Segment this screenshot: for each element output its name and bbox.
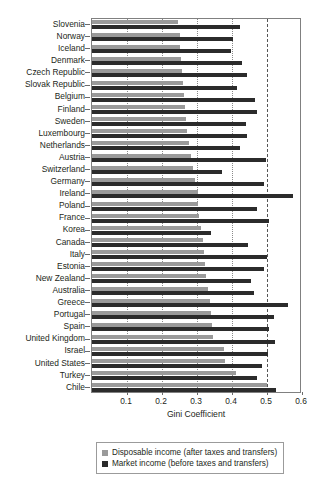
plot-panel — [91, 18, 301, 393]
category-tick — [85, 278, 90, 279]
category-label: Turkey — [60, 371, 85, 379]
category-label: Spain — [64, 322, 85, 330]
x-tick-0.3 — [197, 392, 198, 395]
bar-market — [92, 291, 254, 295]
category-tick — [85, 242, 90, 243]
bar-disposable — [92, 57, 181, 61]
bar-disposable — [92, 178, 195, 182]
bar-market — [92, 194, 293, 198]
bar-disposable — [92, 190, 198, 194]
category-tick — [85, 60, 90, 61]
bar-disposable — [92, 274, 206, 278]
category-tick — [85, 230, 90, 231]
bar-disposable — [92, 33, 180, 37]
category-label: Norway — [57, 32, 85, 40]
bar-market — [92, 110, 257, 114]
bar-market — [92, 376, 257, 380]
bar-disposable — [92, 311, 211, 315]
category-label: Czech Republic — [26, 68, 85, 76]
bar-disposable — [92, 383, 267, 387]
category-label: New Zealand — [36, 274, 85, 282]
category-label: United Kingdom — [25, 334, 85, 342]
x-tick-label-0.5: 0.5 — [254, 396, 278, 406]
category-tick — [85, 290, 90, 291]
bar-market — [92, 146, 240, 150]
category-label: United States — [35, 359, 85, 367]
category-label: Denmark — [51, 56, 85, 64]
bar-market — [92, 267, 264, 271]
bar-market — [92, 364, 262, 368]
category-label: Estonia — [57, 262, 85, 270]
category-label: Iceland — [58, 44, 85, 52]
bar-market — [92, 231, 211, 235]
x-tick-label-0.6: 0.6 — [289, 396, 310, 406]
bar-disposable — [92, 347, 224, 351]
x-axis-tick-labels: 0.10.20.30.40.50.6 — [91, 396, 301, 408]
bar-market — [92, 73, 247, 77]
legend-swatch-disposable-icon — [102, 450, 108, 456]
bar-disposable — [92, 299, 210, 303]
bar-market — [92, 243, 248, 247]
category-label: Slovenia — [53, 20, 85, 28]
bar-disposable — [92, 154, 191, 158]
bar-market — [92, 340, 275, 344]
category-label: Canada — [56, 238, 85, 246]
category-tick — [85, 145, 90, 146]
x-tick-label-0.2: 0.2 — [149, 396, 173, 406]
category-tick — [85, 157, 90, 158]
category-tick — [85, 181, 90, 182]
category-tick — [85, 351, 90, 352]
bar-disposable — [92, 238, 203, 242]
bar-market — [92, 49, 231, 53]
category-tick — [85, 85, 90, 86]
category-label: Austria — [59, 153, 85, 161]
category-tick — [85, 109, 90, 110]
x-tick-0.6 — [302, 392, 303, 395]
category-label: Sweden — [55, 117, 85, 125]
bar-market — [92, 207, 257, 211]
bar-disposable — [92, 371, 236, 375]
bar-disposable — [92, 93, 184, 97]
bar-disposable — [92, 105, 185, 109]
bar-disposable — [92, 69, 182, 73]
bar-market — [92, 134, 247, 138]
bar-market — [92, 388, 276, 392]
category-tick — [85, 339, 90, 340]
category-tick — [85, 133, 90, 134]
gini-coefficient-bar-chart: SloveniaNorwayIcelandDenmarkCzech Republ… — [0, 0, 310, 491]
bar-disposable — [92, 141, 189, 145]
category-tick — [85, 254, 90, 255]
legend-label-market: Market income (before taxes and transfer… — [112, 459, 269, 469]
category-label: Finland — [58, 105, 85, 113]
bar-disposable — [92, 359, 225, 363]
category-label: Netherlands — [40, 141, 85, 149]
category-tick — [85, 193, 90, 194]
category-tick — [85, 302, 90, 303]
bar-market — [92, 327, 269, 331]
category-label: Belgium — [55, 92, 85, 100]
category-tick — [85, 206, 90, 207]
bar-market — [92, 61, 242, 65]
bar-disposable — [92, 202, 198, 206]
category-tick — [85, 121, 90, 122]
bar-market — [92, 219, 269, 223]
category-tick — [85, 314, 90, 315]
category-tick — [85, 375, 90, 376]
x-axis-title: Gini Coefficient — [91, 409, 301, 419]
x-tick-0.5 — [267, 392, 268, 395]
bar-disposable — [92, 262, 205, 266]
category-label: Greece — [58, 298, 85, 306]
bar-disposable — [92, 250, 204, 254]
category-label: Ireland — [59, 189, 85, 197]
category-label: Portugal — [54, 310, 85, 318]
category-label: Slovak Republic — [25, 80, 85, 88]
category-tick — [85, 218, 90, 219]
gridline-0.5 — [267, 19, 268, 392]
bar-disposable — [92, 45, 180, 49]
legend-swatch-market-icon — [102, 461, 108, 467]
bar-market — [92, 122, 246, 126]
category-label: Israel — [65, 346, 85, 354]
bar-disposable — [92, 20, 178, 24]
category-tick — [85, 36, 90, 37]
category-label: France — [59, 213, 85, 221]
